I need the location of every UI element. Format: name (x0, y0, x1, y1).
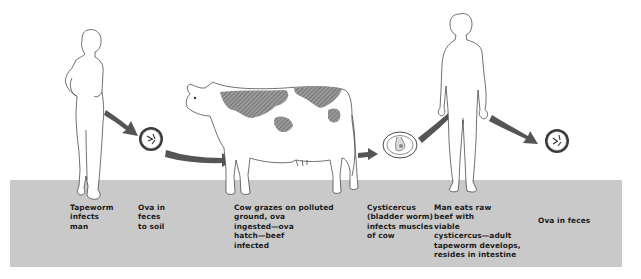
arrow-to-cow (165, 150, 234, 167)
label-ova-in-feces: Ova in feces (538, 216, 590, 225)
cysticercus-icon (383, 132, 417, 158)
tapeworm-life-cycle-diagram: Tapeworm infects man Ova in feces to soi… (0, 0, 641, 279)
ovum-icon-feces (545, 129, 569, 153)
label-man-eats-raw-beef: Man eats raw beef with viable cysticercu… (434, 203, 521, 259)
human-figure-infected (65, 30, 103, 200)
arrow-to-ova-feces (489, 115, 538, 144)
human-figure-host (438, 13, 487, 192)
label-cow-grazes: Cow grazes on polluted ground, ova inges… (234, 203, 334, 250)
arrow-to-ova-soil (104, 110, 138, 136)
arrow-to-cysticercus (358, 148, 378, 160)
label-ova-to-soil: Ova in feces to soil (138, 203, 165, 231)
ovum-icon (139, 127, 163, 151)
label-tapeworm-infects-man: Tapeworm infects man (70, 203, 113, 231)
label-cysticercus: Cysticercus (bladder worm) infects muscl… (367, 203, 433, 241)
